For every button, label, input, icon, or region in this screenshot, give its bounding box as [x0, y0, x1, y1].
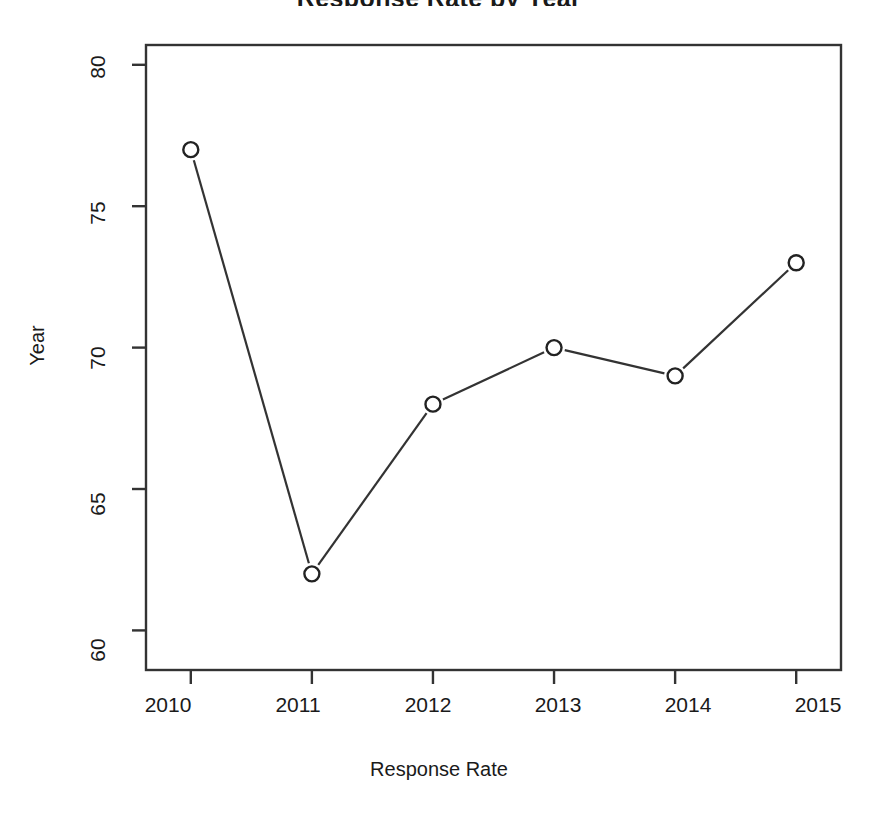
plot-area	[0, 0, 878, 819]
data-line-segment	[443, 352, 544, 399]
data-point-markers	[183, 142, 803, 581]
data-point-2010	[183, 142, 198, 157]
data-line-segment	[565, 350, 665, 373]
x-axis-ticks	[191, 670, 796, 684]
data-point-2013	[547, 340, 562, 355]
data-point-2011	[304, 566, 319, 581]
data-line-segment	[194, 160, 309, 563]
data-point-2014	[668, 368, 683, 383]
y-axis-ticks	[132, 65, 146, 631]
chart-container: Response Rate by Year Year Response Rate…	[0, 0, 878, 819]
data-point-2012	[425, 397, 440, 412]
data-line-segment	[318, 413, 426, 565]
data-point-2015	[789, 255, 804, 270]
data-line-segment	[683, 270, 788, 368]
